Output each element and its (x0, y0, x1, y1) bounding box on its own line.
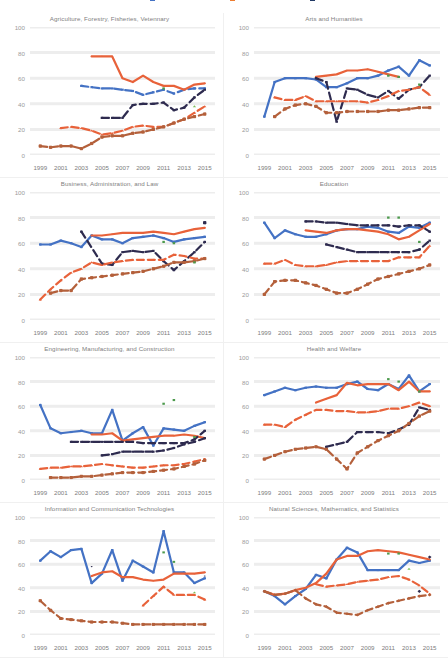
circle-marker-icon (101, 572, 103, 573)
square-marker-icon (377, 389, 380, 391)
circle-marker-icon (356, 385, 358, 386)
circle-marker-icon (91, 56, 93, 57)
square-marker-icon (315, 385, 318, 387)
x-tick-label: 2005 (95, 489, 109, 496)
square-marker-icon (346, 547, 349, 549)
plus-marker-icon (111, 134, 114, 137)
square-marker-icon (273, 237, 276, 239)
square-marker-icon (132, 441, 134, 443)
square-marker-icon (132, 560, 134, 562)
x-tick-label: 2003 (299, 164, 313, 171)
x-tick-label: 2015 (198, 164, 212, 171)
circle-marker-icon (111, 56, 113, 57)
square-marker-icon (152, 445, 154, 447)
square-marker-icon (377, 431, 380, 433)
square-marker-icon (142, 566, 144, 568)
series-green-triangle (193, 591, 196, 593)
y-tick-label: 60 (242, 403, 249, 410)
x-tick-label: 2007 (340, 644, 354, 651)
x-tick-label: 2001 (278, 164, 292, 171)
x-tick-label: 2005 (95, 164, 109, 171)
square-marker-icon (346, 249, 349, 251)
square-marker-icon (173, 92, 175, 94)
x-tick-label: 1999 (257, 329, 271, 336)
plus-marker-icon (59, 476, 62, 479)
square-marker-icon (101, 238, 103, 240)
plus-marker-icon (273, 454, 276, 457)
square-marker-icon (366, 224, 369, 226)
plus-marker-icon (356, 288, 359, 291)
triangle-marker-icon (407, 568, 410, 570)
square-marker-icon (162, 427, 164, 429)
series-line (40, 531, 204, 583)
series-navy-dashed (315, 75, 431, 123)
square-marker-icon (142, 251, 144, 253)
square-marker-icon (132, 451, 134, 453)
circle-marker-icon (101, 434, 103, 435)
circle-marker-icon (91, 575, 93, 576)
plus-marker-icon (335, 458, 338, 461)
x-tick-label: 2009 (361, 164, 375, 171)
plus-marker-icon (366, 110, 369, 113)
y-tick-label: 0 (246, 317, 249, 324)
y-tick-label: 100 (15, 354, 25, 361)
plus-marker-icon (294, 103, 297, 106)
chart-panel-education: Education0204060801001999200120032005200… (224, 178, 448, 343)
circle-marker-icon (204, 83, 206, 84)
plus-marker-icon (325, 448, 328, 451)
x-tick-label: 1999 (257, 164, 271, 171)
x-tick-label: 1999 (33, 489, 47, 496)
square-marker-icon (387, 432, 390, 434)
square-marker-icon (284, 387, 287, 389)
square-marker-icon (408, 374, 411, 376)
circle-marker-icon (132, 81, 134, 82)
series-navy-dashed-lo (101, 437, 206, 456)
square-marker-icon (39, 404, 41, 406)
x-tick-label: 2013 (177, 644, 191, 651)
square-marker-icon (142, 236, 144, 238)
plus-marker-icon (314, 445, 317, 448)
y-axis: 020406080100 (0, 192, 28, 320)
x-tick-label: 2007 (340, 164, 354, 171)
plus-marker-icon (376, 439, 379, 442)
plus-marker-icon (294, 448, 297, 451)
chart-panel-business-administration-and-law: Business, Administration, and Law0204060… (0, 178, 224, 343)
plus-marker-icon (49, 476, 52, 479)
square-marker-icon (397, 98, 400, 100)
square-marker-icon (162, 101, 164, 103)
square-marker-icon (142, 94, 144, 96)
square-marker-icon (203, 437, 205, 439)
square-marker-icon (408, 251, 411, 253)
plus-marker-icon (366, 445, 369, 448)
circle-marker-icon (408, 236, 410, 237)
square-marker-icon (193, 582, 195, 584)
panel-title: Education (224, 180, 444, 187)
plus-marker-icon (283, 107, 286, 110)
legend-item (230, 0, 237, 2)
square-marker-icon (70, 431, 72, 433)
x-tick-label: 2005 (319, 489, 333, 496)
circle-marker-icon (163, 232, 165, 233)
plus-marker-icon (183, 261, 186, 264)
plus-marker-icon (345, 292, 348, 295)
square-marker-icon (162, 551, 164, 553)
y-tick-label: 100 (15, 24, 25, 31)
chart-panel-natural-sciences-mathematics-and-statistics: Natural Sciences, Mathematics, and Stati… (224, 503, 448, 658)
square-marker-icon (335, 443, 338, 445)
square-marker-icon (132, 250, 134, 252)
x-tick-label: 2015 (423, 164, 437, 171)
plus-marker-icon (49, 609, 52, 612)
square-marker-icon (80, 548, 82, 550)
plus-marker-icon (131, 623, 134, 626)
square-marker-icon (387, 75, 390, 77)
x-tick-label: 2013 (402, 329, 416, 336)
square-marker-icon (60, 240, 62, 242)
square-marker-icon (366, 431, 369, 433)
series-line (316, 382, 430, 403)
y-axis: 020406080100 (0, 357, 28, 480)
series-brown-dashed (263, 410, 432, 471)
circle-marker-icon (367, 69, 369, 70)
circle-marker-icon (194, 228, 196, 229)
circle-marker-icon (367, 551, 369, 552)
plus-marker-icon (111, 274, 114, 277)
